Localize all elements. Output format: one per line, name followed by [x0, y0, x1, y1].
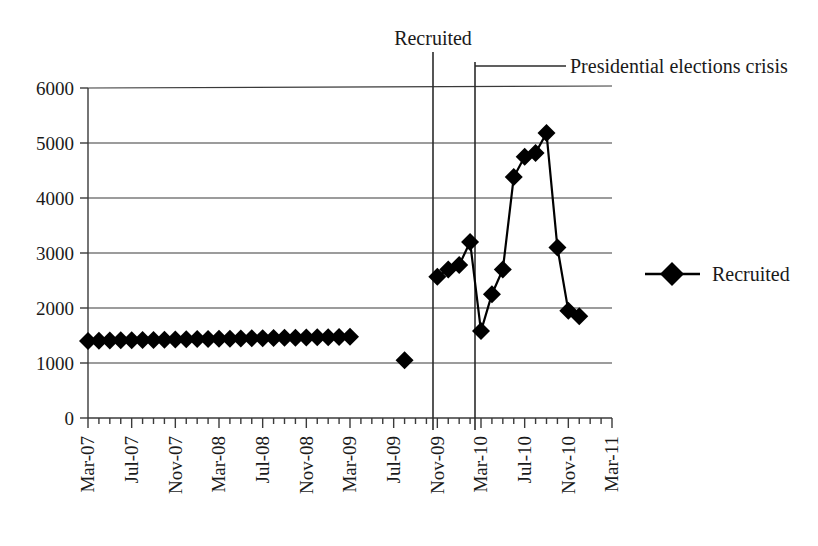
x-axis-label: Nov-10: [558, 436, 579, 494]
x-axis-label: Jul-08: [252, 436, 273, 484]
y-label-4000: 4000: [36, 188, 74, 209]
gridlines: [88, 86, 612, 363]
data-point-marker: [483, 285, 501, 303]
annotation-recruited: Recruited: [394, 27, 472, 430]
x-axis-label: Jul-09: [383, 436, 404, 484]
gridline-6000: [88, 86, 612, 88]
data-point-marker: [538, 124, 556, 142]
x-axis-label: Mar-11: [601, 436, 622, 492]
data-point-marker: [341, 328, 359, 346]
legend-diamond-icon: [660, 262, 684, 286]
y-axis-labels: 6000 5000 4000 3000 2000 1000 0: [36, 78, 74, 429]
y-label-6000: 6000: [36, 78, 74, 99]
y-tickmarks: [80, 88, 88, 418]
annotation-crisis-label: Presidential elections crisis: [570, 55, 788, 77]
chart-svg: 6000 5000 4000 3000 2000 1000 0 Mar-07Ju…: [0, 0, 818, 546]
x-axis-label: Mar-09: [339, 436, 360, 493]
y-label-1000: 1000: [36, 353, 74, 374]
x-axis-label: Nov-08: [296, 436, 317, 494]
data-point-marker: [396, 351, 414, 369]
data-point-marker: [461, 233, 479, 251]
annotation-recruited-label: Recruited: [394, 27, 472, 49]
x-axis-label: Jul-07: [121, 436, 142, 484]
legend: Recruited: [645, 262, 790, 286]
data-point-marker: [548, 239, 566, 257]
x-axis-label: Jul-10: [514, 436, 535, 484]
x-axis-label: Nov-09: [427, 436, 448, 494]
x-axis-label: Mar-08: [208, 436, 229, 493]
annotation-crisis: Presidential elections crisis: [475, 55, 788, 430]
data-point-marker: [494, 261, 512, 279]
page-top-edge: [0, 0, 818, 14]
data-point-marker: [505, 168, 523, 186]
x-tickmarks: [88, 418, 612, 428]
y-label-3000: 3000: [36, 243, 74, 264]
data-series-recruited: [79, 124, 588, 369]
y-label-2000: 2000: [36, 298, 74, 319]
x-axis-label: Mar-07: [77, 436, 98, 493]
x-axis-label: Nov-07: [165, 436, 186, 494]
chart-container: 6000 5000 4000 3000 2000 1000 0 Mar-07Ju…: [0, 0, 818, 546]
x-axis-labels: Mar-07Jul-07Nov-07Mar-08Jul-08Nov-08Mar-…: [77, 436, 622, 494]
x-axis-label: Mar-10: [470, 436, 491, 493]
legend-label-recruited: Recruited: [712, 263, 790, 285]
y-label-5000: 5000: [36, 133, 74, 154]
series-line: [437, 133, 579, 331]
y-label-0: 0: [65, 408, 75, 429]
